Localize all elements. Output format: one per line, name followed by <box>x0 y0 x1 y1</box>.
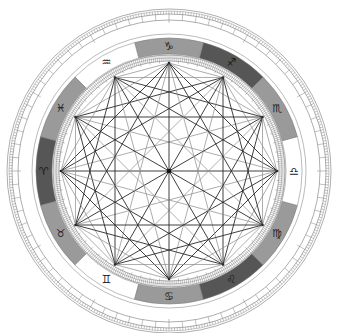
sagittarius-glyph-icon: ♐︎ <box>227 56 237 69</box>
aspect-line <box>75 117 223 265</box>
aspect-line <box>263 171 277 225</box>
aspect-line <box>115 63 169 77</box>
pisces-glyph-icon: ♓︎ <box>56 102 66 115</box>
vertex-dot <box>222 76 225 79</box>
virgo-glyph-icon: ♍︎ <box>272 227 282 240</box>
vertex-dot <box>74 116 77 119</box>
aspect-line <box>75 117 169 279</box>
aspect-line <box>115 265 169 279</box>
capricorn-glyph-icon: ♑︎ <box>164 40 174 53</box>
aquarius-glyph-icon: ♒︎ <box>102 56 112 69</box>
gemini-glyph-icon: ♊︎ <box>102 273 112 286</box>
vertex-dot <box>261 224 264 227</box>
aspect-line <box>169 63 223 77</box>
aspect-line <box>169 63 263 225</box>
vertex-dot <box>222 263 225 266</box>
libra-glyph-icon: ♎︎ <box>289 165 299 178</box>
vertex-dot <box>168 62 171 65</box>
aspect-line <box>115 77 263 225</box>
astrology-wheel: ♈︎♉︎♊︎♋︎♌︎♍︎♎︎♏︎♐︎♑︎♒︎♓︎ <box>0 0 337 333</box>
vertex-dot <box>168 278 171 281</box>
aspect-line <box>115 117 263 265</box>
aspect-line <box>61 171 75 225</box>
aries-glyph-icon: ♈︎ <box>39 165 49 178</box>
vertex-dot <box>114 76 117 79</box>
aspect-line <box>169 265 223 279</box>
aspect-line <box>61 117 75 171</box>
aspect-line <box>75 77 223 225</box>
scorpio-glyph-icon: ♏︎ <box>272 102 282 115</box>
vertex-dot <box>74 224 77 227</box>
vertex-dot <box>60 170 63 173</box>
vertex-dot <box>276 170 279 173</box>
leo-glyph-icon: ♌︎ <box>227 273 237 286</box>
cancer-glyph-icon: ♋︎ <box>164 290 174 303</box>
vertex-dot <box>114 263 117 266</box>
aspect-line <box>263 117 277 171</box>
aspect-line <box>61 171 223 265</box>
center-dot <box>167 169 172 174</box>
vertex-dot <box>261 116 264 119</box>
taurus-glyph-icon: ♉︎ <box>56 227 66 240</box>
